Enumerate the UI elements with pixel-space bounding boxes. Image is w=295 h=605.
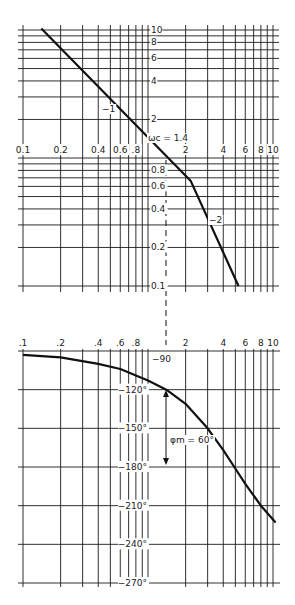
svg-text:4: 4 (151, 76, 157, 86)
svg-text:4: 4 (220, 338, 226, 348)
svg-text:0.6: 0.6 (113, 145, 128, 155)
svg-text:6: 6 (242, 338, 248, 348)
svg-text:0.8: 0.8 (151, 165, 166, 175)
magnitude-axis-labels: 0.10.20.40.6.82468101086420.80.60.40.20.… (14, 24, 279, 291)
svg-text:−240°: −240° (118, 539, 147, 549)
slope-minus-2-label: −2 (209, 215, 222, 225)
svg-text:.1: .1 (19, 338, 28, 348)
svg-text:−270°: −270° (118, 578, 147, 588)
svg-text:0.2: 0.2 (53, 145, 67, 155)
svg-text:.8: .8 (132, 338, 141, 348)
magnitude-grid (18, 25, 279, 292)
svg-text:0.1: 0.1 (16, 145, 30, 155)
svg-text:10: 10 (267, 338, 279, 348)
svg-text:0.2: 0.2 (151, 242, 165, 252)
phase-margin-label: φm = 60° (170, 435, 214, 445)
slope-minus-1-label: −1 (102, 104, 115, 114)
svg-text:−90: −90 (152, 354, 171, 364)
svg-text:−180°: −180° (118, 462, 147, 472)
svg-text:0.4: 0.4 (151, 204, 166, 214)
svg-text:0.1: 0.1 (151, 281, 165, 291)
phase-margin-arrow (163, 390, 169, 465)
svg-text:0.6: 0.6 (151, 181, 166, 191)
svg-text:.4: .4 (94, 338, 103, 348)
svg-text:2: 2 (183, 145, 189, 155)
svg-text:−150°: −150° (118, 423, 147, 433)
crossover-frequency-label: ωc = 1.4 (148, 133, 188, 143)
svg-text:−210°: −210° (118, 501, 147, 511)
svg-text:−120°: −120° (118, 385, 147, 395)
svg-text:10: 10 (267, 145, 279, 155)
svg-text:10: 10 (151, 25, 163, 35)
bode-plot-figure: 0.10.20.40.6.82468101086420.80.60.40.20.… (0, 0, 295, 605)
svg-text:.2: .2 (56, 338, 65, 348)
svg-text:8: 8 (151, 37, 157, 47)
bode-plot-svg: 0.10.20.40.6.82468101086420.80.60.40.20.… (0, 0, 295, 605)
svg-text:0.4: 0.4 (91, 145, 106, 155)
svg-text:6: 6 (242, 145, 248, 155)
phase-axis-labels: .1.2.4.6.8246810−90−120°−150°−180°−210°−… (19, 338, 279, 588)
svg-text:8: 8 (258, 145, 264, 155)
svg-text:2: 2 (183, 338, 189, 348)
svg-text:.8: .8 (132, 145, 141, 155)
svg-text:2: 2 (151, 114, 157, 124)
svg-text:8: 8 (258, 338, 264, 348)
svg-text:.6: .6 (116, 338, 125, 348)
svg-text:4: 4 (220, 145, 226, 155)
svg-text:6: 6 (151, 53, 157, 63)
